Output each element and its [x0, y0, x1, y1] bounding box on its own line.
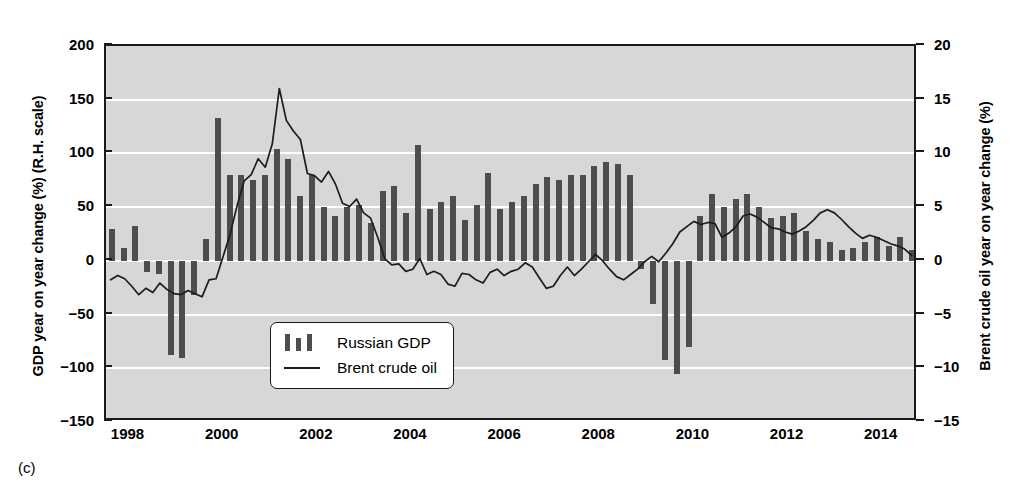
tickmark	[104, 419, 112, 421]
tickmark	[916, 312, 924, 314]
tickmark	[104, 43, 112, 45]
tickmark	[104, 97, 112, 99]
y-axis-right-tick-label: −5	[934, 304, 1006, 321]
y-axis-right-tick-label: 15	[934, 89, 1006, 106]
y-axis-left-tick-label: 0	[22, 250, 94, 267]
tickmark	[916, 258, 924, 260]
x-axis-tick-label: 2000	[187, 425, 257, 442]
y-axis-left-tick-label: −150	[22, 412, 94, 429]
tickmark	[104, 365, 112, 367]
y-axis-left-tick-label: 150	[22, 89, 94, 106]
axis-tickmarks	[104, 44, 916, 420]
figure-caption: (c)	[18, 459, 36, 476]
tickmark	[916, 204, 924, 206]
tickmark	[104, 258, 112, 260]
x-axis-tick-label: 2004	[375, 425, 445, 442]
tickmark	[104, 150, 112, 152]
y-axis-left-tick-label: 50	[22, 197, 94, 214]
x-axis-tick-label: 2006	[469, 425, 539, 442]
tickmark	[104, 312, 112, 314]
y-axis-right-tick-label: 10	[934, 143, 1006, 160]
x-axis-tick-label: 1998	[93, 425, 163, 442]
y-axis-left-tick-label: −50	[22, 304, 94, 321]
y-axis-right-tick-label: 5	[934, 197, 1006, 214]
y-axis-right-tick-label: 20	[934, 36, 1006, 53]
y-axis-right-tick-label: 0	[934, 250, 1006, 267]
tickmark	[916, 150, 924, 152]
x-axis-tick-label: 2014	[846, 425, 916, 442]
y-axis-left-tick-label: 200	[22, 36, 94, 53]
tickmark	[916, 365, 924, 367]
y-axis-right-ticks: 20151050−5−10−15	[934, 0, 1006, 501]
y-axis-left-tick-label: −100	[22, 358, 94, 375]
tickmark	[104, 204, 112, 206]
tickmark	[916, 97, 924, 99]
y-axis-left-ticks: 200150100500−50−100−150	[22, 0, 94, 501]
x-axis-tick-label: 2010	[657, 425, 727, 442]
tickmark	[916, 43, 924, 45]
tickmark	[916, 419, 924, 421]
y-axis-right-tick-label: −15	[934, 412, 1006, 429]
x-axis-tick-label: 2012	[752, 425, 822, 442]
x-axis-tick-label: 2002	[281, 425, 351, 442]
x-axis-tick-label: 2008	[563, 425, 633, 442]
y-axis-right-tick-label: −10	[934, 358, 1006, 375]
y-axis-left-tick-label: 100	[22, 143, 94, 160]
figure-panel-c: GDP year on year change (%) (R.H. scale)…	[0, 0, 1026, 501]
